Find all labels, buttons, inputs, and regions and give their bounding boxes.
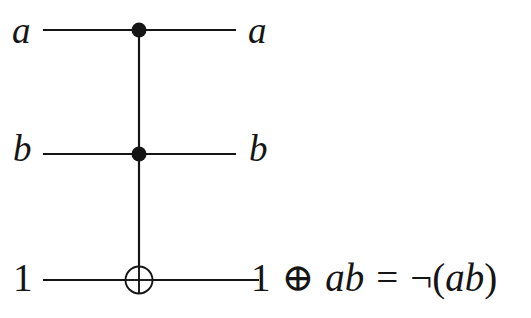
expr-token-ab-right: ab — [445, 256, 484, 299]
expr-token-ab-left: ab — [325, 256, 364, 299]
expr-token-oplus-icon: ⊕ — [282, 256, 315, 299]
expr-token-one: 1 — [251, 256, 271, 299]
output-label-b: b — [249, 130, 268, 167]
input-label-b: b — [13, 130, 32, 167]
control-dot-b-icon — [132, 147, 147, 162]
expr-token-negation-icon: ¬ — [410, 256, 432, 299]
output-expression: 1⊕ab=¬(ab) — [251, 258, 497, 297]
output-label-a: a — [248, 12, 267, 49]
expr-token-paren-close: ) — [484, 256, 497, 299]
expr-token-paren-open: ( — [432, 256, 445, 299]
circuit-diagram-canvas: a b 1 a b 1⊕ab=¬(ab) — [0, 0, 531, 318]
control-dot-a-icon — [132, 23, 147, 38]
input-label-a: a — [12, 12, 31, 49]
expr-token-equals: = — [376, 256, 398, 299]
input-label-one: 1 — [13, 258, 33, 297]
